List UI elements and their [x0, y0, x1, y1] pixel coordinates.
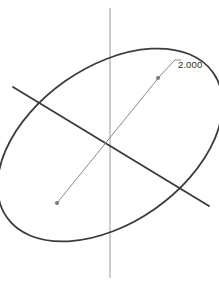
dimension-leader-line[interactable]: [160, 60, 175, 76]
dimension-value-label[interactable]: 2.000: [178, 59, 202, 70]
cad-sketch-canvas[interactable]: 2.000: [0, 0, 219, 282]
ellipse-major-axis-line[interactable]: [13, 87, 209, 206]
minor-axis-upper-endpoint-marker[interactable]: [156, 76, 159, 79]
cad-sketch-viewport: 2.000: [0, 0, 219, 282]
minor-axis-lower-endpoint-marker[interactable]: [55, 201, 58, 204]
ellipse-minor-axis-line[interactable]: [57, 76, 160, 203]
